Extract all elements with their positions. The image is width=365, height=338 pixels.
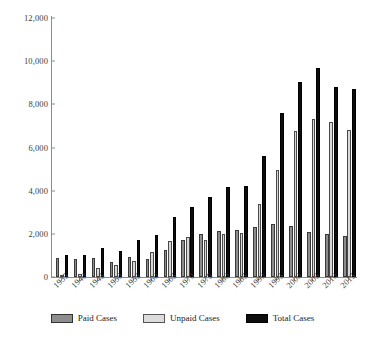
y-axis-tick-labels: 02,0004,0006,0008,00010,00012,000 [0,0,48,338]
bar-group [271,18,284,277]
bar-group [110,18,123,277]
legend-swatch-paid [51,314,73,323]
y-axis-tick-label: 8,000 [28,99,48,109]
bar [276,170,280,277]
y-axis-tick-label: 10,000 [24,56,48,66]
bar-group [289,18,302,277]
bar [258,204,262,277]
bar [137,240,141,277]
bar-group [74,18,87,277]
bar-group [164,18,177,277]
bar [316,68,320,277]
bar [352,89,356,277]
bar [271,224,275,277]
bar [253,227,257,277]
y-axis-tick-label: 12,000 [24,13,48,23]
bar-group [253,18,266,277]
bar [312,119,316,277]
bar-chart: 02,0004,0006,0008,00010,00012,000 193519… [0,0,365,338]
bar [181,240,185,277]
bar-group [235,18,248,277]
y-axis-tick-label: 0 [44,272,48,282]
bar-group [199,18,212,277]
chart-legend: Paid CasesUnpaid CasesTotal Cases [0,313,365,323]
bar [289,226,293,277]
legend-label-total: Total Cases [273,313,315,323]
bar [280,113,284,277]
bar [334,87,338,277]
bar-group [128,18,141,277]
legend-item-total[interactable]: Total Cases [246,313,315,323]
bar [244,186,248,277]
y-axis-tick-label: 4,000 [28,186,48,196]
legend-swatch-total [246,314,268,323]
bar [298,82,302,277]
legend-item-unpaid[interactable]: Unpaid Cases [143,313,220,323]
bar [343,236,347,277]
bar-group [217,18,230,277]
plot-area [52,18,357,277]
bar [307,232,311,277]
bar-group [92,18,105,277]
legend-label-paid: Paid Cases [78,313,117,323]
bar [226,187,230,277]
bar [262,156,266,277]
bar [199,234,203,277]
bar [235,230,239,277]
bar-group [146,18,159,277]
bar-group [56,18,69,277]
legend-item-paid[interactable]: Paid Cases [51,313,117,323]
bar [190,207,194,277]
bar-group [325,18,338,277]
y-axis-tick-label: 6,000 [28,143,48,153]
bar [208,197,212,277]
bar [347,130,351,277]
legend-swatch-unpaid [143,314,165,323]
bar-group [307,18,320,277]
bar [173,217,177,277]
bar [155,235,159,277]
bar [294,131,298,277]
bar [329,122,333,277]
y-axis-tick-label: 2,000 [28,229,48,239]
bar-group [343,18,356,277]
bar [325,234,329,277]
legend-label-unpaid: Unpaid Cases [170,313,220,323]
bar-group [181,18,194,277]
bar [217,231,221,277]
bar [164,250,168,277]
